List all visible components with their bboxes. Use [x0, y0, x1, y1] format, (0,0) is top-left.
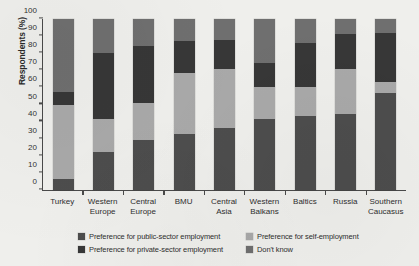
x-axis-category-line: Caucasus	[366, 207, 406, 217]
legend-label: Preference for self-employment	[257, 232, 359, 241]
bars-row	[43, 19, 406, 190]
legend-label: Preference for public-sector employment	[89, 232, 220, 241]
legend-swatch-icon	[246, 246, 253, 253]
bar-segment[interactable]	[295, 19, 316, 43]
bar-segment[interactable]	[53, 19, 74, 92]
bar-segment[interactable]	[93, 19, 114, 53]
bar-segment[interactable]	[214, 19, 235, 40]
bar-stack[interactable]	[375, 19, 396, 190]
x-axis-category-label: CentralAsia	[204, 197, 244, 216]
y-axis-tick-label: 0	[33, 177, 43, 186]
bar-segment[interactable]	[335, 114, 356, 190]
bar-segment[interactable]	[93, 119, 114, 152]
bar-segment[interactable]	[53, 92, 74, 105]
bar-segment[interactable]	[133, 19, 154, 46]
bar-stack[interactable]	[335, 19, 356, 190]
bar-stack[interactable]	[295, 19, 316, 190]
x-axis-category-line: Europe	[123, 207, 163, 217]
x-axis-category-line: Russia	[325, 197, 365, 207]
legend-item[interactable]: Preference for private-sector employment	[78, 245, 246, 254]
x-axis-category-label: WesternEurope	[82, 197, 122, 216]
bar-segment[interactable]	[375, 93, 396, 190]
bar-slot	[245, 19, 285, 190]
stacked-bar-chart: Respondents (%) 0102030405060708090100 T…	[0, 0, 419, 266]
x-axis-category-label: WesternBalkans	[244, 197, 284, 216]
x-axis-tick-mark	[325, 191, 326, 195]
x-axis-tick-mark	[244, 191, 245, 195]
bar-segment[interactable]	[133, 140, 154, 190]
x-axis-labels: TurkeyWesternEuropeCentralEuropeBMUCentr…	[42, 197, 406, 216]
y-axis-title: Respondents (%)	[17, 0, 27, 116]
legend-item[interactable]: Preference for self-employment	[246, 232, 406, 241]
bar-stack[interactable]	[93, 19, 114, 190]
bar-segment[interactable]	[254, 19, 275, 63]
x-axis-tick-mark	[82, 191, 83, 195]
y-axis-tick-label: 80	[28, 40, 43, 49]
y-axis-tick-label: 50	[28, 91, 43, 100]
bar-segment[interactable]	[254, 87, 275, 119]
bar-segment[interactable]	[254, 63, 275, 88]
bar-slot	[124, 19, 164, 190]
bar-slot	[164, 19, 204, 190]
bar-segment[interactable]	[214, 69, 235, 128]
bar-segment[interactable]	[375, 33, 396, 83]
x-axis-category-label: Russia	[325, 197, 365, 216]
x-axis-tick-mark	[204, 191, 205, 195]
bar-segment[interactable]	[335, 34, 356, 69]
y-axis-tick-label: 20	[28, 142, 43, 151]
legend-label: Preference for private-sector employment	[89, 245, 223, 254]
x-axis-category-line: Central	[204, 197, 244, 207]
x-axis-category-line: Central	[123, 197, 163, 207]
x-axis-category-label: CentralEurope	[123, 197, 163, 216]
x-axis-tick-mark	[285, 191, 286, 195]
bar-stack[interactable]	[254, 19, 275, 190]
bar-segment[interactable]	[93, 53, 114, 119]
bar-segment[interactable]	[174, 19, 195, 41]
bar-segment[interactable]	[133, 46, 154, 103]
x-axis-category-line: Southern	[366, 197, 406, 207]
bar-slot	[366, 19, 406, 190]
bar-segment[interactable]	[295, 87, 316, 115]
bar-slot	[325, 19, 365, 190]
bar-segment[interactable]	[335, 69, 356, 113]
bar-slot	[204, 19, 244, 190]
y-axis-tick-label: 40	[28, 108, 43, 117]
bar-slot	[285, 19, 325, 190]
bar-segment[interactable]	[133, 103, 154, 140]
bar-segment[interactable]	[174, 41, 195, 73]
bar-segment[interactable]	[174, 134, 195, 190]
legend-swatch-icon	[78, 233, 85, 240]
x-axis-category-line: Asia	[204, 207, 244, 217]
bar-segment[interactable]	[174, 73, 195, 134]
legend-item[interactable]: Don't know	[246, 245, 406, 254]
x-axis-category-line: BMU	[163, 197, 203, 207]
legend-item[interactable]: Preference for public-sector employment	[78, 232, 246, 241]
bar-segment[interactable]	[375, 82, 396, 93]
x-axis-ticks	[42, 191, 406, 196]
bar-slot	[43, 19, 83, 190]
legend-swatch-icon	[78, 246, 85, 253]
bar-stack[interactable]	[53, 19, 74, 190]
y-axis-tick-label: 90	[28, 23, 43, 32]
bar-stack[interactable]	[214, 19, 235, 190]
y-axis-tick-label: 60	[28, 74, 43, 83]
y-axis-tick-label: 10	[28, 159, 43, 168]
bar-segment[interactable]	[214, 40, 235, 69]
x-axis-category-line: Balkans	[244, 207, 284, 217]
x-axis-category-label: BMU	[163, 197, 203, 216]
bar-segment[interactable]	[295, 116, 316, 190]
bar-segment[interactable]	[335, 19, 356, 34]
x-axis-category-label: SouthernCaucasus	[366, 197, 406, 216]
bar-segment[interactable]	[214, 128, 235, 190]
bar-slot	[83, 19, 123, 190]
bar-stack[interactable]	[174, 19, 195, 190]
legend-swatch-icon	[246, 233, 253, 240]
bar-segment[interactable]	[254, 119, 275, 190]
x-axis-category-label: Turkey	[42, 197, 82, 216]
bar-stack[interactable]	[133, 19, 154, 190]
bar-segment[interactable]	[53, 105, 74, 179]
bar-segment[interactable]	[53, 179, 74, 190]
bar-segment[interactable]	[375, 19, 396, 33]
bar-segment[interactable]	[93, 152, 114, 190]
bar-segment[interactable]	[295, 43, 316, 87]
